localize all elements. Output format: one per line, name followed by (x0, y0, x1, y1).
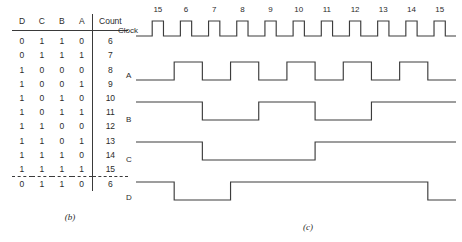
cell-bit-d: 0 (12, 177, 32, 192)
cell-bit-a: 1 (72, 48, 93, 62)
cell-bit-d: 1 (12, 77, 32, 91)
waveform-d (136, 182, 456, 200)
figure-c-caption: (c) (268, 222, 348, 232)
timing-waveform-canvas: 156789101112131415 ClockABCD (118, 0, 462, 220)
waveform-a (136, 62, 456, 80)
clock-tick-label: 10 (294, 5, 303, 14)
table-row: 101010 (12, 91, 128, 105)
column-header-b: B (52, 14, 72, 31)
cell-bit-d: 1 (12, 63, 32, 77)
cell-bit-a: 0 (72, 119, 93, 133)
table-row: 10008 (12, 63, 128, 77)
table-head: D C B A Count (12, 14, 128, 31)
waveform-b (136, 102, 456, 120)
cell-bit-b: 1 (52, 31, 72, 49)
figure-c-timing-diagram: 156789101112131415 ClockABCD (c) (118, 0, 462, 242)
clock-tick-label: 14 (407, 5, 416, 14)
cell-bit-c: 0 (32, 91, 52, 105)
table-row: 111014 (12, 148, 128, 162)
signal-label-a: A (126, 71, 132, 80)
cell-bit-a: 0 (72, 148, 93, 162)
table-row: 01106 (12, 177, 128, 192)
cell-bit-c: 1 (32, 119, 52, 133)
cell-bit-d: 0 (12, 31, 32, 49)
table-row: 110012 (12, 119, 128, 133)
clock-tick-labels: 156789101112131415 (153, 5, 444, 14)
waveform-c (136, 142, 456, 160)
clock-tick-label: 9 (268, 5, 273, 14)
cell-bit-d: 1 (12, 119, 32, 133)
table-body: 0110601117100081001910101010111111001211… (12, 31, 128, 192)
cell-bit-d: 1 (12, 148, 32, 162)
table-row: 01106 (12, 31, 128, 49)
cell-bit-d: 1 (12, 91, 32, 105)
cell-bit-c: 0 (32, 105, 52, 119)
cell-bit-d: 1 (12, 134, 32, 148)
cell-bit-b: 0 (52, 134, 72, 148)
cell-bit-b: 0 (52, 119, 72, 133)
cell-bit-a: 1 (72, 105, 93, 119)
cell-bit-a: 0 (72, 31, 93, 49)
cell-bit-c: 1 (32, 148, 52, 162)
cell-bit-b: 1 (52, 162, 72, 177)
clock-tick-label: 11 (323, 5, 332, 14)
cell-bit-a: 1 (72, 134, 93, 148)
column-header-c: C (32, 14, 52, 31)
signal-label-b: B (126, 115, 131, 124)
clock-tick-label: 8 (240, 5, 245, 14)
cell-bit-a: 0 (72, 91, 93, 105)
signal-label-clock: Clock (118, 26, 139, 35)
cell-bit-b: 1 (52, 48, 72, 62)
cell-bit-b: 0 (52, 63, 72, 77)
cell-bit-d: 0 (12, 48, 32, 62)
table-row: 111115 (12, 162, 128, 177)
signal-label-d: D (126, 193, 132, 202)
signal-name-labels: ClockABCD (118, 26, 139, 202)
counter-truth-table: D C B A Count 01106011171000810019101010… (12, 14, 128, 191)
table-row: 01117 (12, 48, 128, 62)
cell-bit-a: 0 (72, 177, 93, 192)
cell-bit-c: 1 (32, 48, 52, 62)
cell-bit-b: 0 (52, 77, 72, 91)
column-header-d: D (12, 14, 32, 31)
table-row: 101111 (12, 105, 128, 119)
column-header-a: A (72, 14, 93, 31)
table-row: 110113 (12, 134, 128, 148)
clock-tick-label: 12 (351, 5, 360, 14)
cell-bit-c: 1 (32, 134, 52, 148)
cell-bit-c: 1 (32, 31, 52, 49)
table-header-row: D C B A Count (12, 14, 128, 31)
cell-bit-b: 1 (52, 148, 72, 162)
clock-tick-label: 6 (184, 5, 189, 14)
cell-bit-c: 0 (32, 77, 52, 91)
signal-label-c: C (126, 155, 132, 164)
waveform-traces (136, 21, 456, 200)
waveform-clock (136, 21, 456, 36)
clock-tick-label: 15 (435, 5, 444, 14)
cell-bit-a: 0 (72, 63, 93, 77)
cell-bit-c: 0 (32, 63, 52, 77)
cell-bit-c: 1 (32, 177, 52, 192)
cell-bit-a: 1 (72, 77, 93, 91)
cell-bit-b: 1 (52, 91, 72, 105)
table-row: 10019 (12, 77, 128, 91)
cell-bit-b: 1 (52, 177, 72, 192)
clock-tick-label: 7 (212, 5, 217, 14)
clock-tick-label: 13 (379, 5, 388, 14)
cell-bit-a: 1 (72, 162, 93, 177)
cell-bit-c: 1 (32, 162, 52, 177)
clock-tick-label: 15 (153, 5, 162, 14)
cell-bit-d: 1 (12, 162, 32, 177)
cell-bit-b: 1 (52, 105, 72, 119)
cell-bit-d: 1 (12, 105, 32, 119)
